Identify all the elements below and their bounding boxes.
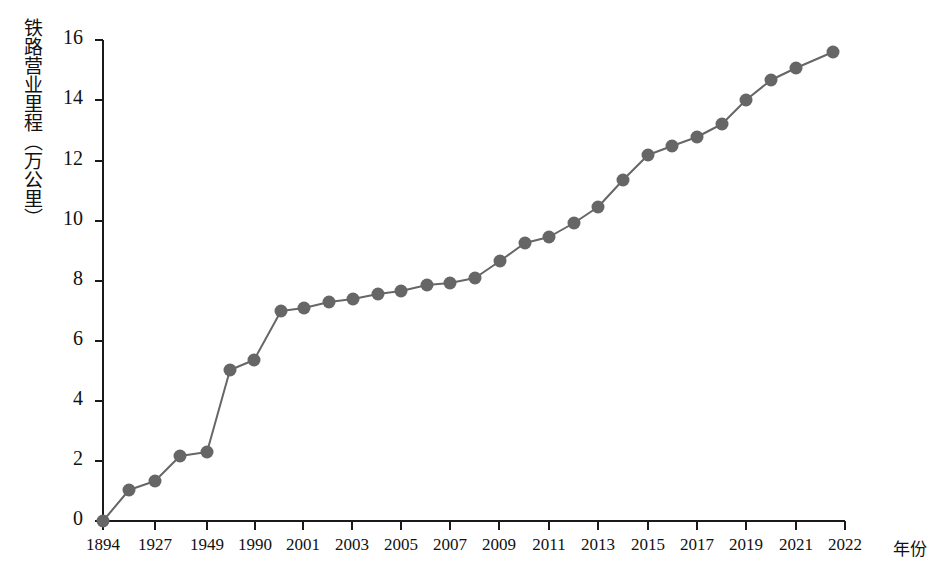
data-point [592,201,605,214]
data-point [519,237,532,250]
data-point [347,293,360,306]
data-point [372,288,385,301]
data-point [691,131,704,144]
data-point [642,149,655,162]
data-point [444,277,457,290]
data-point [568,217,581,230]
data-point [790,62,803,75]
data-point [275,305,288,318]
data-point [149,475,162,488]
data-point [298,302,311,315]
data-point [827,46,840,59]
data-point [123,484,136,497]
data-point [666,140,679,153]
data-point [469,272,482,285]
data-point [740,94,753,107]
data-point [395,285,408,298]
data-point [174,450,187,463]
line-chart: 铁路营业里程（万公里） 年份 0246810121416 18941927194… [0,0,941,576]
x-axis-ticks [103,521,845,530]
plot-area [0,0,941,576]
data-point [97,515,110,528]
data-point [421,279,434,292]
data-point [248,354,261,367]
data-point [224,364,237,377]
data-point [716,118,729,131]
data-point [543,231,556,244]
data-point [494,255,507,268]
data-point [201,446,214,459]
data-point [323,296,336,309]
data-point [617,174,630,187]
y-axis-ticks [95,40,103,521]
data-point [765,74,778,87]
